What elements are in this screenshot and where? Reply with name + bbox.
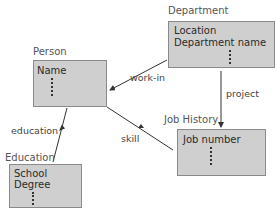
department-entity-title: Department <box>168 5 229 16</box>
job-history-attr-job-number: Job number <box>183 134 241 145</box>
department-entity-box: Location Department name <box>168 21 275 68</box>
education-more-dots <box>32 192 36 205</box>
skill-arrowhead <box>138 124 144 128</box>
department-more-dots <box>229 50 233 64</box>
work-in-label: work-in <box>130 73 165 83</box>
department-attr-name: Department name <box>174 37 266 48</box>
person-entity-box: Name <box>33 60 107 107</box>
person-more-dots <box>51 78 55 96</box>
person-attr-name: Name <box>37 65 67 76</box>
education-entity-title: Education <box>5 152 55 163</box>
job-history-more-dots <box>210 147 214 165</box>
education-entity-box: School Degree <box>9 164 82 208</box>
department-attr-location: Location <box>174 25 216 36</box>
job-history-entity-box: Job number <box>177 129 266 176</box>
skill-label: skill <box>121 134 139 144</box>
education-arrowhead <box>59 124 66 132</box>
education-label: education <box>11 126 58 136</box>
project-label: project <box>226 89 259 99</box>
education-attr-school: School <box>14 168 47 179</box>
job-history-entity-title: Job History <box>164 114 218 125</box>
education-attr-degree: Degree <box>14 179 50 190</box>
person-entity-title: Person <box>33 46 67 57</box>
